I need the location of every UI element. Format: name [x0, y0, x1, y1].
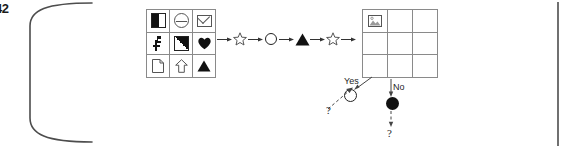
- table-cell[interactable]: [363, 10, 388, 33]
- right-arrow-icon: [248, 35, 263, 44]
- right-arrow-icon: [279, 35, 294, 44]
- right-arrow-icon: [217, 35, 232, 44]
- sequence-node[interactable]: [294, 31, 310, 47]
- filled-circle-icon[interactable]: [386, 97, 399, 110]
- sequence-node[interactable]: [232, 31, 248, 47]
- table-cell[interactable]: [413, 10, 438, 33]
- table-cell[interactable]: [193, 55, 216, 78]
- filled-triangle-icon: [295, 33, 310, 46]
- table-cell[interactable]: [388, 10, 413, 33]
- filled-triangle-icon: [197, 60, 211, 72]
- result-matrix[interactable]: [362, 9, 438, 78]
- table-cell[interactable]: [413, 33, 438, 56]
- no-branch-label: No: [393, 82, 405, 92]
- heart-icon: [198, 37, 211, 50]
- table-cell[interactable]: [193, 33, 216, 56]
- up-arrow-outline-icon: [175, 59, 188, 73]
- right-arrow-icon: [341, 35, 356, 44]
- page-frame: [0, 0, 564, 147]
- key-mark-icon: [153, 36, 163, 51]
- table-cell[interactable]: [388, 33, 413, 56]
- no-output-question-mark: ?: [387, 127, 392, 139]
- half-filled-square-icon: [151, 13, 166, 28]
- yes-input-question-mark: ?: [326, 104, 331, 116]
- no-output-connector: [382, 111, 404, 131]
- table-cell[interactable]: [388, 55, 413, 78]
- table-cell[interactable]: [170, 33, 193, 56]
- table-cell[interactable]: [147, 10, 170, 33]
- circle-outline-icon: [265, 33, 277, 45]
- right-arrow-icon: [310, 35, 325, 44]
- envelope-icon: [197, 15, 212, 27]
- table-cell[interactable]: [363, 33, 388, 56]
- symbol-matrix[interactable]: [146, 9, 216, 78]
- open-circle-icon[interactable]: [344, 89, 357, 102]
- figure-number: 42: [0, 1, 8, 16]
- sequence-node[interactable]: [325, 31, 341, 47]
- barred-circle-icon: [174, 13, 189, 28]
- picture-icon: [368, 15, 382, 27]
- document-icon: [152, 59, 164, 73]
- figure-canvas: 42: [0, 0, 564, 147]
- diagonal-half-square-icon: [174, 36, 189, 51]
- table-cell[interactable]: [193, 10, 216, 33]
- table-cell[interactable]: [147, 33, 170, 56]
- star-outline-icon: [326, 32, 340, 46]
- yes-branch-label: Yes: [344, 76, 359, 86]
- sequence-node[interactable]: [263, 31, 279, 47]
- table-cell[interactable]: [170, 55, 193, 78]
- table-cell[interactable]: [170, 10, 193, 33]
- table-cell[interactable]: [363, 55, 388, 78]
- table-cell[interactable]: [147, 55, 170, 78]
- table-cell[interactable]: [413, 55, 438, 78]
- transformation-sequence: [217, 30, 356, 48]
- star-outline-icon: [233, 32, 247, 46]
